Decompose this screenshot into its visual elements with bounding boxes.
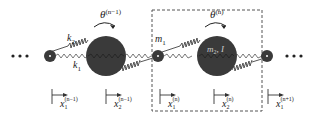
displacement-x1-next: x1(n+1) xyxy=(268,89,294,110)
theta-current-label: θ(n) xyxy=(210,8,224,20)
spring-k1-d xyxy=(234,54,262,58)
spring-k2-c xyxy=(162,38,200,52)
ellipsis-right xyxy=(285,54,302,57)
spring-k2-d xyxy=(232,58,265,71)
displacement-x1-prev: x1(n−1) xyxy=(52,89,78,110)
svg-text:x1(n−1): x1(n−1) xyxy=(59,96,78,110)
theta-prev-label: θ(n−1) xyxy=(100,8,122,20)
spring-k1-c xyxy=(164,54,192,58)
spring-k1-b xyxy=(124,54,151,58)
mass-m1-prev xyxy=(44,50,56,62)
k1-label: k1 xyxy=(73,59,81,73)
displacement-x1-current: x1(n) xyxy=(160,89,179,110)
displacement-x2-current: x2(n) xyxy=(214,89,233,110)
spring-k1-a xyxy=(55,54,88,58)
metamaterial-chain-diagram: θ(n−1) θ(n) k2 k1 m1 m2, I x1(n−1) x2(n−… xyxy=(0,0,312,118)
svg-text:x1(n): x1(n) xyxy=(167,96,179,110)
k2-label: k2 xyxy=(67,32,75,46)
svg-text:x2(n−1): x2(n−1) xyxy=(113,96,132,110)
svg-text:x1(n+1): x1(n+1) xyxy=(275,96,294,110)
ellipsis-left xyxy=(11,54,28,57)
mass-m1-next xyxy=(261,50,273,62)
m2-inertia-label: m2, I xyxy=(207,44,225,55)
displacement-x2-prev: x2(n−1) xyxy=(106,89,132,110)
mass-m1-current xyxy=(152,50,164,62)
svg-text:x2(n): x2(n) xyxy=(221,96,233,110)
m1-label: m1 xyxy=(155,33,166,47)
